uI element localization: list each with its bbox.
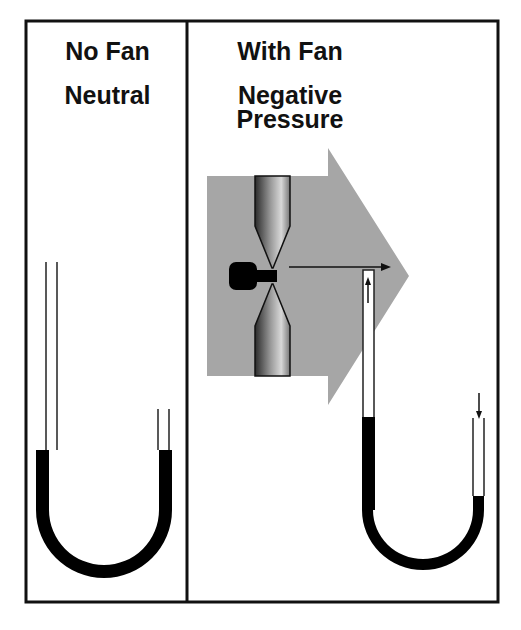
right-title: With Fan bbox=[225, 38, 355, 64]
right-subtitle-line2: Pressure bbox=[225, 106, 355, 132]
left-manometer bbox=[36, 262, 172, 578]
left-title: No Fan bbox=[30, 38, 185, 64]
left-subtitle: Neutral bbox=[30, 82, 185, 108]
